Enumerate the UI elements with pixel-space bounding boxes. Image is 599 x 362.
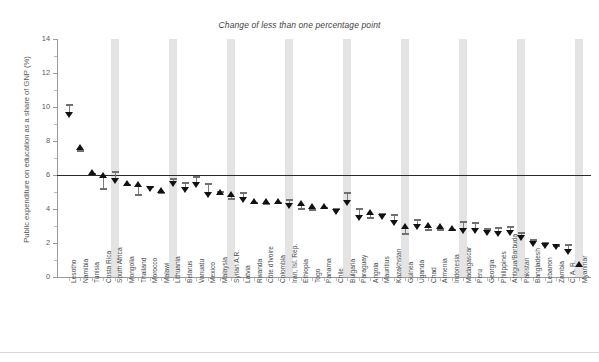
data-point-marker-down[interactable] — [181, 187, 189, 193]
data-point-marker-down[interactable] — [390, 220, 398, 226]
data-point-start-marker — [309, 209, 316, 211]
data-point-marker-down[interactable] — [541, 243, 549, 249]
data-point-marker-up[interactable] — [274, 198, 282, 204]
data-point-marker-down[interactable] — [239, 197, 247, 203]
x-axis-category-label: Mexico — [210, 262, 217, 283]
data-point-marker-up[interactable] — [448, 225, 456, 231]
y-axis-tick — [53, 243, 57, 244]
background-band — [459, 39, 467, 277]
data-point-marker-down[interactable] — [413, 224, 421, 230]
data-point-marker-down[interactable] — [343, 200, 351, 206]
x-axis-category-label: Bulgaria — [350, 259, 357, 283]
y-axis-tick-label: 12 — [34, 69, 50, 76]
chart-title: Change of less than one percentage point — [0, 20, 599, 30]
data-point-marker-up[interactable] — [401, 223, 409, 229]
x-axis-category-label: Lithuania — [175, 256, 182, 283]
x-axis-category-label: South Africa — [117, 247, 124, 283]
y-axis-tick — [53, 141, 57, 142]
data-point-marker-up[interactable] — [308, 203, 316, 209]
x-axis-category-label: Thailand — [141, 258, 148, 283]
y-axis-minor-tick — [54, 124, 57, 125]
y-axis-tick-label: 10 — [34, 103, 50, 110]
data-point-marker-up[interactable] — [216, 189, 224, 195]
x-axis-category-label: Indonesia — [454, 254, 461, 283]
background-band — [285, 39, 293, 277]
y-axis-minor-tick — [54, 226, 57, 227]
data-point-marker-down[interactable] — [169, 181, 177, 187]
data-point-start-marker — [182, 182, 189, 184]
data-point-marker-down[interactable] — [552, 244, 560, 250]
data-point-start-marker — [298, 208, 305, 210]
y-axis-minor-tick — [54, 158, 57, 159]
x-axis-category-label: Namibia — [83, 259, 90, 283]
data-point-marker-up[interactable] — [134, 181, 142, 187]
data-point-marker-up[interactable] — [76, 144, 84, 150]
data-point-marker-up[interactable] — [366, 209, 374, 215]
x-axis-category-label: Panama — [326, 258, 333, 283]
background-band — [111, 39, 119, 277]
y-axis-tick — [53, 107, 57, 108]
y-axis-minor-tick — [54, 56, 57, 57]
data-point-marker-down[interactable] — [111, 178, 119, 184]
data-point-marker-up[interactable] — [320, 203, 328, 209]
chart-container: Change of less than one percentage point… — [0, 0, 599, 362]
data-point-start-marker — [425, 229, 432, 231]
data-point-marker-down[interactable] — [355, 215, 363, 221]
data-point-marker-up[interactable] — [262, 198, 270, 204]
data-point-marker-down[interactable] — [471, 228, 479, 234]
x-axis-tick — [498, 278, 499, 281]
background-band — [575, 39, 583, 277]
data-point-marker-up[interactable] — [157, 187, 165, 193]
x-axis-category-label: Ethiopia — [303, 259, 310, 283]
data-point-marker-up[interactable] — [436, 223, 444, 229]
data-point-marker-down[interactable] — [285, 203, 293, 209]
data-point-marker-down[interactable] — [564, 249, 572, 255]
x-axis-category-label: Antigua/Barbuda — [512, 234, 519, 283]
data-point-start-marker — [402, 233, 409, 235]
data-point-marker-down[interactable] — [529, 241, 537, 247]
data-point-start-marker — [518, 232, 525, 234]
data-point-start-marker — [495, 227, 502, 229]
x-axis-tick — [231, 278, 232, 281]
data-point-marker-up[interactable] — [297, 200, 305, 206]
data-point-start-marker — [205, 183, 212, 185]
x-axis-category-label: Philippines — [501, 251, 508, 283]
y-axis-minor-tick — [54, 192, 57, 193]
data-point-marker-down[interactable] — [517, 235, 525, 241]
data-point-marker-down[interactable] — [483, 230, 491, 236]
data-point-marker-down[interactable] — [65, 112, 73, 118]
data-point-start-marker — [77, 150, 84, 152]
x-axis-category-label: Myanmar — [582, 256, 589, 283]
data-point-marker-up[interactable] — [250, 198, 258, 204]
data-point-marker-down[interactable] — [378, 214, 386, 220]
data-point-start-marker — [565, 244, 572, 246]
x-axis-category-label: Armenia — [442, 258, 449, 283]
data-point-marker-up[interactable] — [123, 180, 131, 186]
data-point-marker-up[interactable] — [424, 222, 432, 228]
data-point-marker-down[interactable] — [494, 231, 502, 237]
x-axis-category-label: Lebanon — [547, 257, 554, 283]
data-point-start-marker — [507, 226, 514, 228]
data-point-start-marker — [391, 214, 398, 216]
x-axis-category-label: Togo — [315, 269, 322, 283]
data-point-start-marker — [414, 219, 421, 221]
data-point-marker-up[interactable] — [99, 172, 107, 178]
data-point-marker-down[interactable] — [204, 192, 212, 198]
data-point-marker-up[interactable] — [88, 169, 96, 175]
data-point-start-marker — [193, 176, 200, 178]
data-point-marker-down[interactable] — [192, 182, 200, 188]
y-axis-tick — [53, 175, 57, 176]
x-axis-category-label: Uganda — [419, 260, 426, 283]
data-point-start-marker — [100, 188, 107, 190]
x-axis-category-label: Syrian A.R. — [234, 250, 241, 283]
data-point-start-marker — [356, 208, 363, 210]
data-point-marker-up[interactable] — [227, 191, 235, 197]
data-point-start-marker — [367, 217, 374, 219]
data-point-marker-down[interactable] — [459, 228, 467, 234]
data-point-start-marker — [286, 199, 293, 201]
data-point-marker-down[interactable] — [332, 209, 340, 215]
reference-line-6-percent — [57, 175, 591, 176]
y-axis-minor-tick — [54, 90, 57, 91]
data-point-marker-down[interactable] — [146, 186, 154, 192]
x-axis-category-label: Iran, Isl. Rep. — [292, 244, 299, 283]
